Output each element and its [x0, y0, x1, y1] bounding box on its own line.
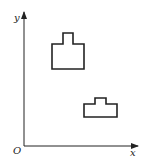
lower-small-shape: [84, 98, 117, 117]
x-axis-label: x: [130, 147, 136, 158]
origin-label: O: [13, 145, 21, 156]
coordinate-diagram: y O x: [0, 0, 156, 168]
upper-large-shape: [52, 33, 84, 69]
y-axis-label: y: [13, 12, 20, 23]
